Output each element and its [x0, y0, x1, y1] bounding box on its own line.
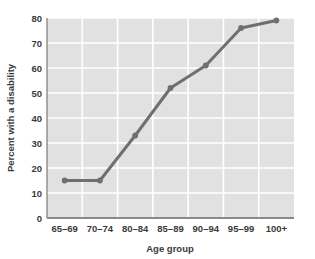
x-tick-label: 80–84 — [122, 223, 149, 234]
y-tick-label: 70 — [31, 38, 42, 49]
y-axis-title: Percent with a disability — [5, 63, 16, 172]
x-tick-label: 85–89 — [157, 223, 183, 234]
data-point — [273, 18, 279, 24]
data-point — [62, 178, 68, 184]
y-axis-tick-labels: 01020304050607080 — [31, 13, 42, 224]
x-tick-label: 100+ — [266, 223, 288, 234]
y-tick-label: 0 — [37, 213, 42, 224]
x-tick-label: 65–69 — [51, 223, 77, 234]
y-tick-label: 40 — [31, 113, 42, 124]
y-tick-label: 80 — [31, 13, 42, 24]
y-tick-label: 10 — [31, 188, 42, 199]
chart-container: 01020304050607080 65–6970–7480–8485–8990… — [0, 0, 315, 259]
x-tick-label: 70–74 — [87, 223, 114, 234]
x-axis-title: Age group — [146, 243, 194, 254]
data-point — [97, 178, 103, 184]
data-point — [203, 63, 209, 69]
y-tick-label: 30 — [31, 138, 42, 149]
y-tick-label: 20 — [31, 163, 42, 174]
data-point — [132, 133, 138, 139]
y-tick-label: 50 — [31, 88, 42, 99]
data-point — [238, 25, 244, 31]
x-axis-tick-labels: 65–6970–7480–8485–8990–9495–99100+ — [51, 223, 287, 234]
x-tick-label: 95–99 — [228, 223, 254, 234]
line-chart: 01020304050607080 65–6970–7480–8485–8990… — [0, 0, 315, 259]
x-tick-label: 90–94 — [193, 223, 220, 234]
y-tick-label: 60 — [31, 63, 42, 74]
data-point — [168, 85, 174, 91]
